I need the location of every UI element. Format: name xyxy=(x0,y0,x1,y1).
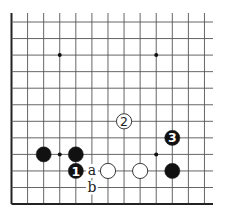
white-stone xyxy=(100,163,115,178)
black-stone xyxy=(165,163,180,178)
point-letter-a: a xyxy=(88,162,96,178)
star-point xyxy=(58,152,62,156)
stone-disc xyxy=(133,163,148,178)
stone-disc xyxy=(100,163,115,178)
point-letter-b: b xyxy=(87,179,96,195)
stone-disc xyxy=(165,163,180,178)
star-point xyxy=(154,53,158,57)
move-number: 2 xyxy=(120,114,128,129)
move-number: 3 xyxy=(168,130,177,145)
star-point xyxy=(58,53,62,57)
black-stone xyxy=(36,147,51,162)
black-stone-1: 1 xyxy=(68,163,83,178)
star-point xyxy=(154,152,158,156)
black-stone-3: 3 xyxy=(165,130,180,145)
go-board-diagram: ab 123 xyxy=(0,0,225,216)
white-stone xyxy=(133,163,148,178)
stone-disc xyxy=(36,147,51,162)
black-stone xyxy=(68,147,83,162)
white-stone-2: 2 xyxy=(116,114,131,129)
point-labels: ab xyxy=(86,162,98,195)
stone-disc xyxy=(68,147,83,162)
move-number: 1 xyxy=(71,164,80,179)
